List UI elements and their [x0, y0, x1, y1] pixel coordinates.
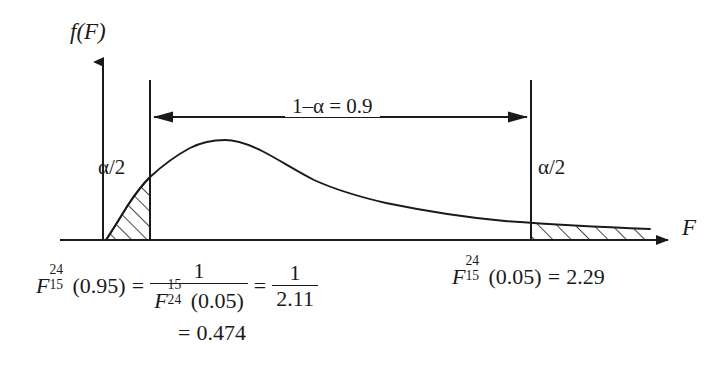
fraction-one-over-f: 1F1524(0.05) [150, 260, 248, 312]
f-symbol-rhs-base: F [452, 264, 465, 289]
f-symbol-den-sub: 24 [168, 293, 182, 307]
f-symbol-lhs-sub: 15 [49, 278, 63, 292]
equals-sign-2: = [248, 273, 272, 298]
fraction-one-over-211: 12.11 [272, 262, 318, 310]
fraction-denominator-2: 2.11 [272, 286, 318, 310]
f-symbol-lhs-scripts: 2415 [49, 271, 72, 293]
f-symbol-lhs: F2415 [36, 271, 73, 297]
f-symbol-den-sup: 15 [168, 278, 182, 292]
f-symbol-rhs-sub: 15 [465, 269, 479, 283]
alpha-over-two-right-label: α/2 [538, 157, 565, 178]
f-symbol-lhs-base: F [36, 273, 49, 298]
fraction-numerator-1: 1 [150, 260, 248, 283]
figure-container: f(F) F α/2 α/2 1–α = 0.9 F2415(0.95)=1F1… [0, 0, 717, 368]
f-symbol-rhs-sup: 24 [465, 254, 479, 268]
equals-sign-4: = [542, 264, 566, 289]
alpha-right-text: α/2 [538, 155, 565, 179]
fraction-denominator-1: F1524(0.05) [150, 284, 248, 312]
f-symbol-rhs-scripts: 2415 [465, 262, 488, 284]
upper-critical-value-number: 2.29 [566, 264, 605, 289]
upper-critical-value-equation: F2415(0.05)=2.29 [452, 262, 605, 288]
confidence-text: 1–α = 0.9 [292, 94, 373, 118]
f-symbol-lhs-sup: 24 [49, 263, 63, 277]
f-symbol-rhs: F2415 [452, 262, 489, 288]
x-axis-label: F [682, 216, 696, 239]
lhs-argument: (0.95) [73, 273, 126, 298]
den-argument: (0.05) [191, 288, 244, 313]
y-axis-label-text: f(F) [70, 19, 106, 44]
fraction-numerator-2: 1 [272, 262, 318, 285]
f-symbol-den-base: F [154, 288, 167, 313]
confidence-level-label: 1–α = 0.9 [285, 96, 380, 117]
f-symbol-den-scripts: 1524 [168, 286, 191, 308]
x-axis-label-text: F [682, 215, 696, 240]
density-curve [106, 140, 650, 240]
lower-critical-value-equation: F2415(0.95)=1F1524(0.05)=12.11 [36, 262, 318, 314]
equals-sign-3: = [172, 320, 196, 345]
alpha-left-text: α/2 [98, 155, 125, 179]
equals-sign-1: = [126, 273, 150, 298]
alpha-over-two-left-label: α/2 [98, 157, 125, 178]
lower-critical-value-result: =0.474 [172, 322, 246, 344]
f-symbol-denominator: F1524 [154, 286, 191, 312]
y-axis-label: f(F) [70, 20, 106, 43]
lower-critical-value-number: 0.474 [196, 320, 246, 345]
rhs-argument: (0.05) [489, 264, 542, 289]
